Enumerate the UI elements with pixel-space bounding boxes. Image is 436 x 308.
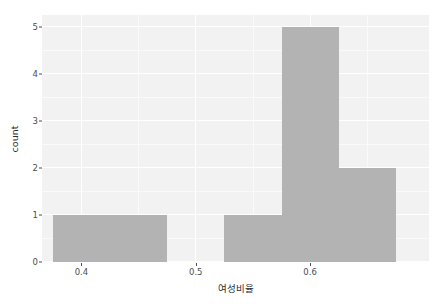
- gridline-major-horizontal: [42, 26, 429, 27]
- gridline-minor-horizontal: [42, 144, 429, 145]
- histogram-chart: count 012345 여성비율 0.40.50.6: [0, 0, 436, 308]
- gridline-major-horizontal: [42, 73, 429, 74]
- y-axis-tick-labels: 012345: [22, 0, 38, 308]
- y-axis-tick-label: 1: [22, 210, 38, 220]
- histogram-bar: [224, 215, 281, 262]
- plot-panel: [42, 15, 429, 262]
- y-axis-title: count: [8, 0, 22, 278]
- x-axis-tick-mark: [310, 263, 311, 266]
- gridline-major-horizontal: [42, 120, 429, 121]
- histogram-bar: [110, 215, 167, 262]
- x-axis-tick-label: 0.4: [75, 267, 89, 277]
- histogram-bar: [282, 27, 339, 262]
- y-axis-tick-mark: [39, 120, 42, 121]
- y-axis-tick-label: 2: [22, 163, 38, 173]
- x-axis-tick-label: 0.5: [189, 267, 203, 277]
- y-axis-tick-label: 3: [22, 116, 38, 126]
- histogram-bar: [339, 168, 396, 262]
- gridline-major-vertical: [195, 15, 196, 262]
- y-axis-tick-label: 5: [22, 22, 38, 32]
- x-axis-tick-mark: [196, 263, 197, 266]
- x-axis-tick-mark: [81, 263, 82, 266]
- y-axis-tick-mark: [39, 214, 42, 215]
- y-axis-tick-mark: [39, 26, 42, 27]
- x-axis-tick-label: 0.6: [303, 267, 317, 277]
- y-axis-tick-mark: [39, 73, 42, 74]
- y-axis-tick-label: 4: [22, 69, 38, 79]
- gridline-minor-horizontal: [42, 97, 429, 98]
- y-axis-tick-mark: [39, 262, 42, 263]
- histogram-bar: [53, 215, 110, 262]
- y-axis-tick-label: 0: [22, 257, 38, 267]
- y-axis-tick-mark: [39, 167, 42, 168]
- x-axis-title: 여성비율: [42, 281, 429, 295]
- gridline-minor-horizontal: [42, 50, 429, 51]
